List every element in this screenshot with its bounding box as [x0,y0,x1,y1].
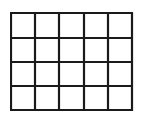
grid-svg [10,12,134,112]
